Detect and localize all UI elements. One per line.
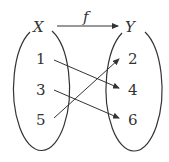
mapping-arrow-3-to-6 [54,90,119,118]
set-y-label: Y [125,20,135,35]
domain-element: 1 [36,52,46,67]
function-label: f [83,10,89,25]
codomain-element: 6 [128,113,138,128]
domain-element: 3 [36,83,46,98]
mapping-arrow-1-to-4 [54,60,119,88]
codomain-element: 2 [128,52,138,67]
codomain-element: 4 [128,83,138,98]
mapping-arrow-5-to-2 [54,59,119,118]
domain-element: 5 [36,113,46,128]
set-x-label: X [33,20,44,35]
